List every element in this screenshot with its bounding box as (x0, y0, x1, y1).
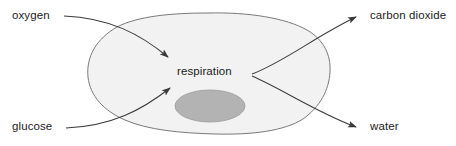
label-respiration: respiration (177, 66, 232, 78)
diagram-canvas: oxygen carbon dioxide glucose water resp… (0, 0, 456, 146)
label-oxygen: oxygen (12, 10, 50, 22)
label-carbon-dioxide: carbon dioxide (370, 10, 446, 22)
nucleus-shape (175, 90, 245, 122)
label-water: water (370, 121, 399, 133)
label-glucose: glucose (12, 121, 52, 133)
